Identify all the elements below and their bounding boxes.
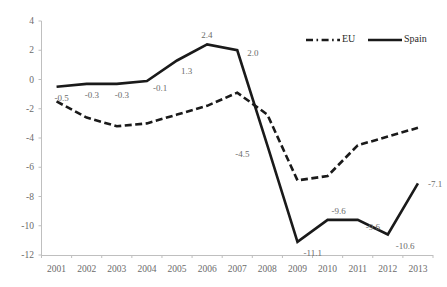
data-point-label: -7.1 — [428, 179, 442, 189]
x-axis-tick-label: 2005 — [160, 264, 194, 274]
legend-entry-eu[interactable]: EU — [306, 30, 355, 46]
data-point-label: -9.6 — [332, 206, 346, 216]
x-axis-tick-label: 2010 — [311, 264, 345, 274]
x-axis-tick-label: 2013 — [401, 264, 435, 274]
chart-series-group — [57, 44, 418, 241]
series-line-eu — [57, 93, 418, 181]
data-point-label: -0.5 — [55, 93, 69, 103]
data-point-label: -10.6 — [396, 241, 415, 251]
line-chart: 420-2-4-6-8-10-12 2001200220032004200520… — [0, 0, 447, 287]
y-axis-tick-label: -2 — [8, 104, 34, 114]
x-axis-tick-label: 2011 — [341, 264, 375, 274]
legend-label-eu: EU — [342, 33, 355, 44]
data-point-label: -11.1 — [303, 248, 321, 258]
legend-swatch-dashed-icon — [306, 32, 340, 44]
x-axis-tick-label: 2003 — [100, 264, 134, 274]
x-axis-tick-label: 2009 — [280, 264, 314, 274]
x-axis-tick-label: 2004 — [130, 264, 164, 274]
x-axis-tick-label: 2008 — [250, 264, 284, 274]
y-axis-tick-label: 0 — [8, 75, 34, 85]
data-point-label: 1.3 — [181, 66, 192, 76]
legend-entry-spain[interactable]: Spain — [368, 30, 427, 46]
data-point-label: 2.0 — [247, 48, 258, 58]
data-point-label: -4.5 — [235, 149, 249, 159]
x-axis-tick-label: 2002 — [70, 264, 104, 274]
y-axis-tick-label: -6 — [8, 162, 34, 172]
y-axis-tick-label: -8 — [8, 192, 34, 202]
x-axis-tick-label: 2012 — [371, 264, 405, 274]
data-point-label: -0.3 — [85, 90, 99, 100]
data-point-label: -0.1 — [153, 83, 167, 93]
x-axis-tick-label: 2006 — [190, 264, 224, 274]
data-point-label: -9.6 — [366, 222, 380, 232]
y-axis-tick-label: -12 — [8, 250, 34, 260]
legend-swatch-solid-icon — [368, 32, 402, 44]
data-point-label: 2.4 — [201, 30, 212, 40]
x-axis-tick-label: 2001 — [40, 264, 74, 274]
y-axis-tick-label: -4 — [8, 133, 34, 143]
data-point-label: -0.3 — [115, 90, 129, 100]
chart-legend: EU Spain — [306, 30, 444, 46]
x-axis-tick-label: 2007 — [220, 264, 254, 274]
legend-label-spain: Spain — [404, 33, 427, 44]
y-axis-tick-label: 4 — [8, 16, 34, 26]
y-axis-tick-label: 2 — [8, 45, 34, 55]
y-axis-tick-label: -10 — [8, 221, 34, 231]
